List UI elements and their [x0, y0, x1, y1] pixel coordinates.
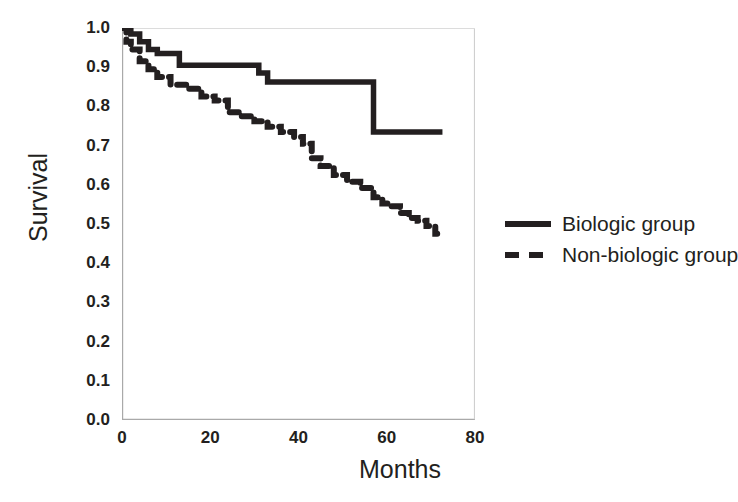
x-tick-label: 0 [92, 428, 152, 448]
x-tick-label: 60 [357, 428, 417, 448]
y-tick-label: 0.7 [58, 136, 110, 156]
x-axis-title: Months [300, 455, 500, 484]
legend-label-biologic: Biologic group [562, 212, 695, 236]
x-tick-label: 80 [445, 428, 505, 448]
y-tick-label: 0.5 [58, 214, 110, 234]
y-tick-label: 0.8 [58, 96, 110, 116]
y-tick-label: 1.0 [58, 18, 110, 38]
y-tick-label: 0.3 [58, 292, 110, 312]
y-axis-title: Survival [24, 98, 53, 298]
y-tick-label: 0.4 [58, 253, 110, 273]
legend-solid-line-icon [505, 214, 553, 234]
legend-item-non-biologic: Non-biologic group [505, 239, 730, 270]
y-tick-label: 0.2 [58, 332, 110, 352]
chart-legend: Biologic group Non-biologic group [505, 208, 730, 270]
survival-curves-svg [122, 28, 475, 420]
y-tick-label: 0.1 [58, 371, 110, 391]
legend-label-non-biologic: Non-biologic group [562, 243, 738, 267]
y-tick-label: 0.6 [58, 175, 110, 195]
x-tick-label: 40 [269, 428, 329, 448]
x-tick-label: 20 [180, 428, 240, 448]
y-tick-label: 0.0 [58, 410, 110, 430]
curves-layer [122, 28, 440, 234]
plot-area [122, 28, 475, 420]
legend-item-biologic: Biologic group [505, 208, 730, 239]
y-tick-label: 0.9 [58, 57, 110, 77]
legend-dashed-line-icon [505, 245, 553, 265]
